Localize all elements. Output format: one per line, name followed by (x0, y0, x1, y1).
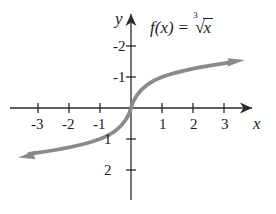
x-tick-label-3: 3 (221, 117, 229, 132)
cube-root-radical: 3√x (193, 18, 213, 36)
y-tick-label-neg2: 2 (104, 163, 112, 178)
y-tick-label-neg1: 1 (104, 132, 112, 147)
curve-right-arrowhead (227, 58, 245, 67)
x-axis-label: x (253, 115, 261, 132)
x-tick-label-2: 2 (190, 117, 198, 132)
x-tick-label-neg3: -3 (31, 117, 44, 132)
plot-canvas (0, 0, 276, 214)
y-tick-label-1: -1 (113, 70, 126, 85)
x-tick-label-neg1: -1 (93, 117, 106, 132)
equals-sign: = (179, 18, 189, 37)
y-tick-label-2: -2 (113, 39, 126, 54)
radical-sign-icon: √ (195, 19, 204, 36)
y-axis-label: y (115, 10, 123, 27)
cube-root-function-graph: -3 -2 -1 1 2 3 -2 -1 1 2 y x f(x)= 3√x (0, 0, 276, 214)
x-tick-label-1: 1 (159, 117, 167, 132)
function-equation-label: f(x)= 3√x (150, 18, 213, 36)
function-lhs: f(x) (150, 18, 174, 37)
x-tick-label-neg2: -2 (62, 117, 75, 132)
curve-left-arrowhead (18, 151, 36, 160)
